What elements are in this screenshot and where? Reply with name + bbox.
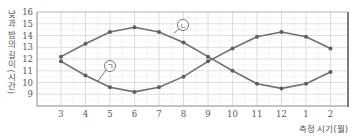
grid-lines	[37, 12, 348, 106]
x-tick-label: 4	[83, 109, 88, 119]
x-tick-label: 1	[303, 109, 308, 119]
x-tick-label: 12	[276, 109, 287, 119]
data-point	[329, 70, 333, 74]
x-tick-label: 11	[252, 109, 263, 119]
x-tick-label: 5	[107, 109, 112, 119]
data-point	[108, 85, 112, 89]
data-point	[157, 30, 161, 34]
x-tick-label: 3	[58, 109, 63, 119]
data-point	[59, 59, 63, 63]
x-tick-label: 2	[328, 109, 333, 119]
data-point	[84, 73, 88, 77]
x-tick-label: 6	[132, 109, 137, 119]
y-axis-ticks: 910111213141516	[22, 7, 33, 99]
data-point	[182, 41, 186, 45]
plot-frame	[37, 12, 348, 107]
x-tick-label: 9	[205, 109, 210, 119]
data-point	[304, 35, 308, 39]
data-point	[255, 82, 259, 86]
y-tick-label: 15	[22, 19, 33, 29]
y-tick-label: 13	[22, 42, 33, 52]
data-point	[280, 30, 284, 34]
data-point	[206, 55, 210, 59]
series-label: ㄴ	[180, 22, 186, 30]
data-point	[157, 85, 161, 89]
data-point	[329, 46, 333, 50]
y-tick-label: 14	[22, 31, 33, 41]
y-axis-title: 낮과 밤의 길이(시간)	[4, 10, 16, 94]
y-tick-label: 16	[22, 7, 33, 17]
y-tick-label: 9	[28, 89, 33, 99]
data-point	[280, 86, 284, 90]
data-point	[182, 75, 186, 79]
data-point	[59, 55, 63, 59]
data-point	[304, 82, 308, 86]
y-tick-label: 12	[22, 54, 33, 64]
data-point	[108, 30, 112, 34]
series-line-giyeok	[61, 32, 331, 92]
data-point	[231, 69, 235, 73]
x-tick-label: 7	[156, 109, 161, 119]
data-point	[133, 25, 137, 29]
series-label: ㄱ	[107, 63, 113, 71]
data-point	[84, 42, 88, 46]
label-leader-line	[98, 70, 106, 81]
day-night-length-chart: 910111213141516 345678910111212 ㄴㄱ	[0, 0, 364, 137]
x-tick-label: 10	[227, 109, 238, 119]
data-point	[206, 59, 210, 63]
y-tick-label: 11	[22, 66, 33, 76]
y-tick-label: 10	[22, 78, 33, 88]
data-point	[133, 90, 137, 94]
x-axis-title: 측정 시기(월)	[299, 122, 348, 134]
data-point	[231, 46, 235, 50]
data-point	[255, 35, 259, 39]
x-tick-label: 8	[181, 109, 186, 119]
x-axis-ticks: 345678910111212	[58, 109, 333, 119]
